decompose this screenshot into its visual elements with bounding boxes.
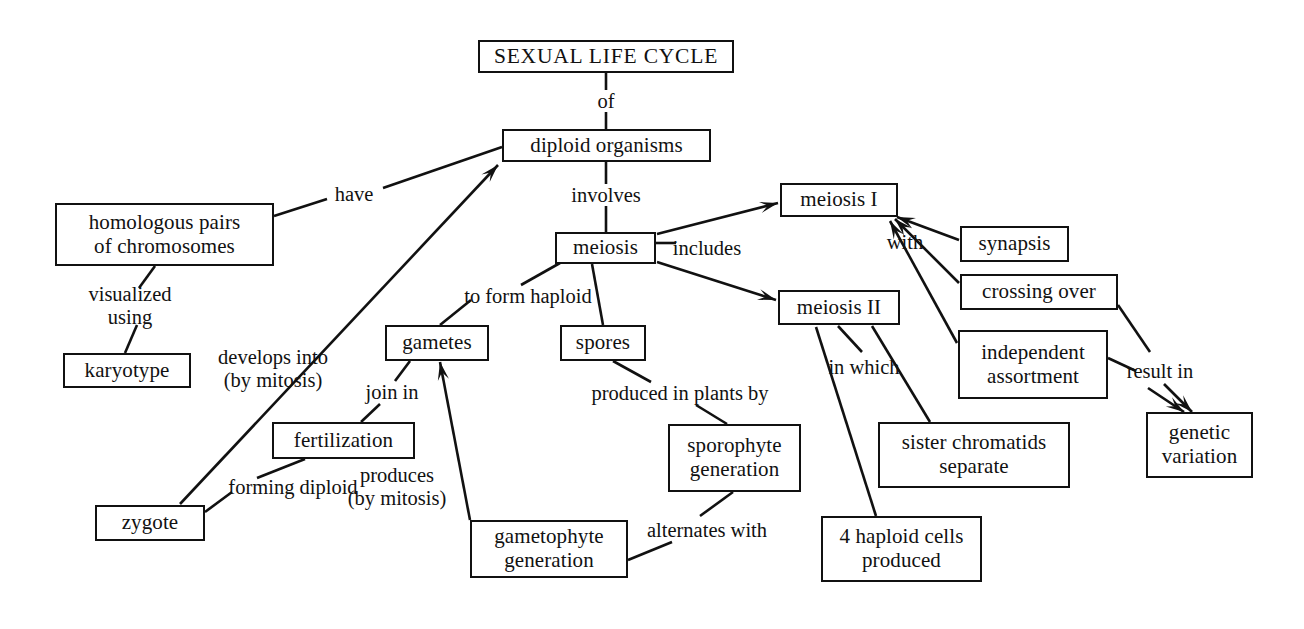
link-label-of: of — [597, 90, 614, 113]
link-produced-to-sporophyte — [696, 405, 727, 424]
link-join-in-to-fertilization — [361, 404, 380, 422]
node-label-meiosis-i: meiosis I — [800, 188, 877, 212]
node-gametes[interactable]: gametes — [385, 325, 489, 361]
link-alternates-to-gametophyte — [628, 542, 672, 560]
node-diploid-organisms[interactable]: diploid organisms — [502, 129, 711, 162]
node-zygote[interactable]: zygote — [95, 505, 205, 541]
node-meiosis-i[interactable]: meiosis I — [780, 183, 898, 217]
node-label-zygote: zygote — [122, 511, 179, 535]
node-genetic-variation[interactable]: genetic variation — [1146, 412, 1253, 478]
node-label-karyotype: karyotype — [85, 359, 170, 383]
link-spores-to-produced — [613, 361, 651, 382]
link-label-forming-diploid: forming diploid — [228, 476, 357, 499]
link-label-alternates-with: alternates with — [647, 519, 767, 542]
link-label-involves: involves — [571, 184, 640, 207]
link-label-visualized-using: visualized using — [88, 283, 171, 328]
node-label-spores: spores — [576, 331, 630, 355]
node-sporophyte-generation[interactable]: sporophyte generation — [668, 424, 801, 492]
node-label-4-haploid-cells: 4 haploid cells produced — [840, 525, 964, 572]
link-homologous-to-have — [274, 199, 327, 216]
link-label-produced-in-plants-by: produced in plants by — [591, 382, 768, 405]
node-label-diploid-organisms: diploid organisms — [530, 134, 682, 158]
link-label-includes: includes — [673, 237, 741, 260]
node-label-sister-chromatids-separate: sister chromatids separate — [902, 431, 1047, 478]
link-sporophyte-to-alternates — [700, 492, 733, 516]
node-meiosis[interactable]: meiosis — [555, 232, 656, 264]
node-gametophyte-generation[interactable]: gametophyte generation — [470, 520, 628, 578]
link-label-produces-by-mitosis: produces (by mitosis) — [348, 464, 447, 509]
node-spores[interactable]: spores — [560, 325, 646, 361]
link-label-develops-into: develops into (by mitosis) — [218, 346, 328, 391]
node-independent-assortment[interactable]: independent assortment — [958, 330, 1108, 399]
link-label-in-which: in which — [828, 356, 899, 379]
link-label-join-in: join in — [366, 381, 419, 404]
node-label-meiosis-ii: meiosis II — [797, 296, 881, 320]
node-sexual-life-cycle[interactable]: SEXUAL LIFE CYCLE — [478, 40, 734, 73]
link-meiosis-to-haploid-label — [521, 263, 560, 285]
link-label-have: have — [335, 183, 374, 206]
node-label-synapsis: synapsis — [979, 232, 1051, 256]
link-meiosis-to-spores — [592, 264, 603, 325]
node-label-crossing-over: crossing over — [982, 280, 1096, 304]
link-have-to-diploid — [383, 147, 502, 188]
link-visualized-to-karyotype — [125, 325, 137, 353]
node-label-sexual-life-cycle: SEXUAL LIFE CYCLE — [494, 44, 718, 68]
node-label-sporophyte-generation: sporophyte generation — [687, 434, 781, 481]
concept-map: SEXUAL LIFE CYCLEdiploid organismshomolo… — [0, 0, 1304, 629]
node-synapsis[interactable]: synapsis — [960, 226, 1069, 262]
node-4-haploid-cells[interactable]: 4 haploid cells produced — [821, 516, 982, 582]
link-label-to-form-haploid: to form haploid — [464, 285, 592, 308]
node-karyotype[interactable]: karyotype — [63, 353, 191, 388]
node-sister-chromatids-separate[interactable]: sister chromatids separate — [878, 422, 1070, 488]
link-label-result-in: result in — [1127, 360, 1194, 383]
node-label-gametes: gametes — [402, 331, 472, 355]
link-meiosis-ii-to-in-which — [838, 326, 862, 352]
node-label-genetic-variation: genetic variation — [1162, 421, 1238, 468]
node-crossing-over[interactable]: crossing over — [960, 274, 1118, 310]
node-label-independent-assortment: independent assortment — [981, 341, 1085, 388]
link-meiosis-to-meiosis-ii — [657, 262, 776, 300]
node-fertilization[interactable]: fertilization — [272, 422, 415, 459]
node-label-homologous-pairs: homologous pairs of chromosomes — [89, 211, 241, 258]
node-label-gametophyte-generation: gametophyte generation — [494, 525, 604, 572]
node-homologous-pairs[interactable]: homologous pairs of chromosomes — [55, 203, 274, 266]
link-crossing-over-to-result — [1118, 305, 1150, 352]
node-label-meiosis: meiosis — [573, 236, 638, 260]
node-label-fertilization: fertilization — [294, 429, 393, 453]
node-meiosis-ii[interactable]: meiosis II — [778, 290, 900, 325]
link-label-with: with — [887, 231, 923, 254]
link-meiosis-to-meiosis-i — [657, 203, 778, 234]
link-gametes-to-join-in — [395, 361, 410, 381]
